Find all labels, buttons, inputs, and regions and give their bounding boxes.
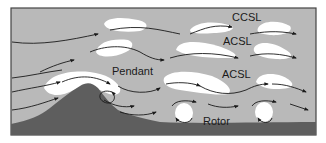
mountain-wave-diagram: CCSL ACSL ACSL Pendant Rotor bbox=[0, 0, 326, 143]
cloud-rotor-right bbox=[255, 102, 273, 122]
label-ccsl: CCSL bbox=[232, 12, 261, 23]
label-rotor: Rotor bbox=[203, 116, 230, 127]
diagram-canvas bbox=[0, 0, 326, 143]
label-acsl-upper: ACSL bbox=[223, 36, 252, 47]
label-pendant: Pendant bbox=[112, 66, 153, 77]
label-acsl-lower: ACSL bbox=[222, 69, 251, 80]
